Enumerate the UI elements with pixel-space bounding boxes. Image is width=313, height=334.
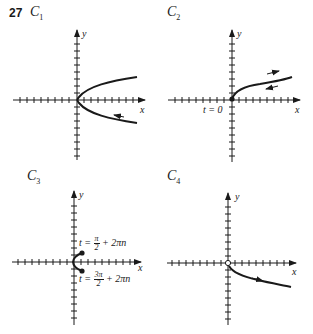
c3-y-label: y [79,189,83,200]
c3-x-label: x [138,262,142,273]
c3-top-annotation: t = π2 + 2πn [79,235,126,252]
c4-y-label: y [235,191,239,202]
curve-c4 [229,266,291,287]
figure-graphs [0,0,313,334]
c3-bottom-annotation: t = 3π2 + 2πn [79,271,130,288]
start-point [229,96,234,101]
open-start-point [225,260,230,265]
graph-c1 [13,30,145,160]
direction-arrow [114,115,124,117]
forward-arrow [267,71,279,74]
graph-c2 [168,30,300,162]
c1-y-label: y [82,28,86,39]
c2-x-label: x [295,104,299,115]
graph-c3 [12,191,141,325]
backward-arrow [266,86,278,89]
curve-c2 [232,77,292,99]
c2-start-annotation: t = 0 [203,104,223,115]
graph-c4 [167,193,296,325]
c2-y-label: y [237,28,241,39]
c4-x-label: x [292,266,296,277]
c1-x-label: x [140,104,144,115]
